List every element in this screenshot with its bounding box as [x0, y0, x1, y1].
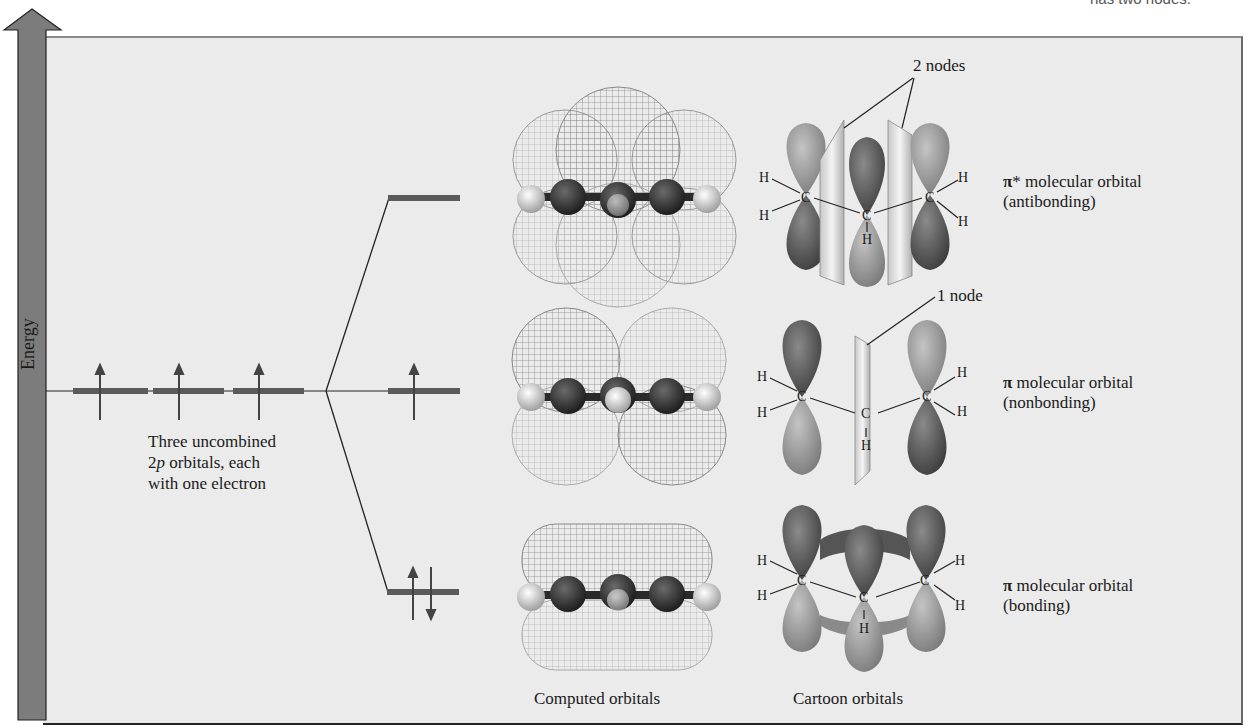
energy-axis-label: Energy	[18, 318, 39, 370]
ao-caption-line2: 2p orbitals, each	[148, 453, 260, 473]
mo-level-nonbonding	[388, 365, 460, 420]
mo-label-bonding: π molecular orbital (bonding)	[1003, 576, 1133, 616]
nodes-label-nonbonding: 1 node	[937, 286, 983, 306]
ao-caption-line3: with one electron	[148, 474, 266, 494]
computed-orbitals-label: Computed orbitals	[534, 689, 660, 709]
correlation-lines	[326, 198, 389, 592]
computed-orbital-nonbonding	[512, 308, 726, 485]
mo-level-bonding	[387, 567, 459, 620]
computed-orbital-bonding	[517, 524, 721, 670]
nodes-pointer	[844, 78, 914, 128]
mo-label-nonbonding: π molecular orbital (nonbonding)	[1003, 373, 1133, 413]
cartoon-orbitals-label: Cartoon orbitals	[793, 689, 903, 709]
mo-label-antibonding: π* molecular orbital (antibonding)	[1003, 172, 1142, 212]
nodes-label-antibonding: 2 nodes	[913, 56, 965, 76]
cartoon-orbital-antibonding	[772, 78, 958, 287]
mo-diagram	[0, 0, 1251, 728]
computed-orbital-antibonding	[513, 87, 736, 307]
ao-caption-line1: Three uncombined	[148, 432, 276, 452]
mo-level-antibonding	[388, 195, 460, 201]
